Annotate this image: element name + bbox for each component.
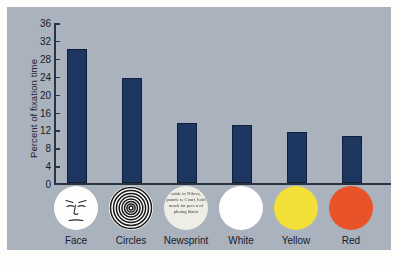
- y-tick-label: 24: [29, 73, 51, 83]
- chart-panel: Percent of fixation time 36 32 28 24 20 …: [7, 7, 391, 250]
- y-axis-tick: [54, 148, 60, 150]
- bar-red[interactable]: [342, 136, 362, 183]
- y-axis-tick: [54, 23, 60, 25]
- swatch-circles[interactable]: [109, 186, 153, 230]
- y-tick-label: 20: [29, 91, 51, 101]
- swatch-white[interactable]: [219, 186, 263, 230]
- concentric-rings-icon: [109, 186, 153, 230]
- bar-white[interactable]: [232, 125, 252, 183]
- swatch-yellow[interactable]: [274, 186, 318, 230]
- bar-yellow[interactable]: [287, 132, 307, 183]
- y-axis-tick: [54, 166, 60, 168]
- swatch-face[interactable]: [54, 186, 98, 230]
- y-axis-tick-labels: 36 32 28 24 20 16 12 8 4 0: [29, 19, 51, 191]
- y-tick-label: 0: [29, 180, 51, 190]
- x-tick-label-white: White: [211, 236, 271, 246]
- y-tick-label: 32: [29, 37, 51, 47]
- bar-circles[interactable]: [122, 78, 142, 183]
- y-axis-line: [54, 23, 56, 184]
- bar-face[interactable]: [67, 49, 87, 183]
- y-tick-label: 36: [29, 19, 51, 29]
- y-axis-tick: [54, 77, 60, 79]
- y-axis-tick: [54, 95, 60, 97]
- x-tick-label-yellow: Yellow: [266, 236, 326, 246]
- y-tick-label: 16: [29, 109, 51, 119]
- y-axis-tick: [54, 113, 60, 115]
- x-tick-label-face: Face: [46, 236, 106, 246]
- figure-canvas: Percent of fixation time 36 32 28 24 20 …: [0, 0, 398, 266]
- newsprint-sample-text: uable to Nilova, parade re Court, hold m…: [164, 186, 208, 230]
- y-axis-tick: [54, 59, 60, 61]
- y-tick-label: 12: [29, 126, 51, 136]
- x-axis-baseline: [54, 183, 391, 185]
- x-tick-label-newsprint: Newsprint: [152, 236, 220, 246]
- y-tick-label: 4: [29, 162, 51, 172]
- y-tick-label: 28: [29, 55, 51, 65]
- x-tick-label-red: Red: [321, 236, 381, 246]
- y-axis-tick: [54, 130, 60, 132]
- swatch-newsprint[interactable]: uable to Nilova, parade re Court, hold m…: [164, 186, 208, 230]
- face-icon: [54, 186, 98, 230]
- y-tick-label: 8: [29, 144, 51, 154]
- swatch-red[interactable]: [329, 186, 373, 230]
- y-axis-tick: [54, 41, 60, 43]
- bar-newsprint[interactable]: [177, 123, 197, 183]
